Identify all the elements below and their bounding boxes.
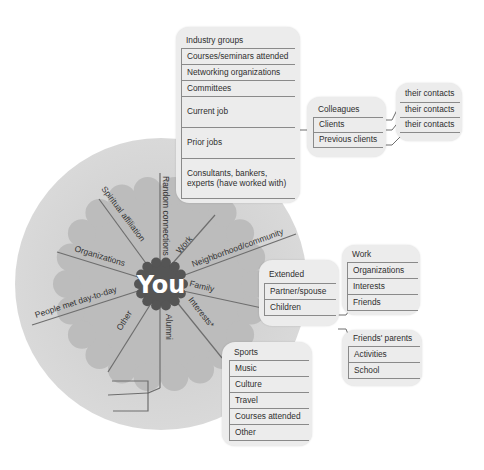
interests-item-other: Other	[229, 425, 309, 441]
family-item-children: Children	[264, 300, 336, 316]
current-job-item-previous-clients: Previous clients	[313, 133, 383, 148]
work-item-committees: Committees	[181, 81, 295, 97]
interests-item-travel: Travel	[229, 393, 309, 409]
partner-box: Work Organizations Interests Friends	[342, 245, 420, 315]
contacts-box: their contacts their contacts their cont…	[396, 83, 462, 141]
center-label: You	[136, 271, 186, 299]
interests-item-courses: Courses attended	[229, 409, 309, 425]
children-item-activities: Activities	[348, 347, 420, 363]
contacts-item-previous-clients: their contacts	[400, 118, 460, 133]
partner-item-interests: Interests	[347, 279, 418, 295]
current-job-item-clients: Clients	[313, 118, 383, 133]
spoke-label-alumni: Alumni	[164, 314, 174, 340]
work-item-current-job: Current job	[181, 97, 295, 128]
children-item-friends-parents: Friends' parents	[348, 331, 420, 347]
work-item-prior-jobs: Prior jobs	[181, 128, 295, 159]
children-item-school: School	[348, 363, 420, 379]
interests-item-sports: Sports	[229, 345, 309, 361]
work-item-courses: Courses/seminars attended	[181, 49, 295, 65]
partner-item-friends: Friends	[347, 295, 418, 311]
children-box: Friends' parents Activities School	[342, 330, 422, 386]
interests-item-music: Music	[229, 361, 309, 377]
interests-box: Sports Music Culture Travel Courses atte…	[222, 342, 312, 446]
current-job-box: Colleagues Clients Previous clients	[307, 97, 386, 157]
current-job-item-colleagues: Colleagues	[313, 103, 383, 118]
contacts-item-clients: their contacts	[400, 103, 460, 118]
work-item-consultants: Consultants, bankers, experts (have work…	[181, 159, 295, 199]
spoke-label-random-connections: Random connections	[161, 176, 171, 256]
work-item-industry-groups: Industry groups	[181, 33, 295, 49]
partner-item-work: Work	[347, 247, 418, 263]
family-item-extended: Extended	[264, 267, 336, 284]
family-box: Extended Partner/spouse Children	[259, 260, 339, 326]
work-item-networking: Networking organizations	[181, 65, 295, 81]
contacts-item-colleagues: their contacts	[400, 86, 460, 103]
family-item-partner: Partner/spouse	[264, 284, 336, 300]
interests-item-culture: Culture	[229, 377, 309, 393]
partner-item-organizations: Organizations	[347, 263, 418, 279]
work-box: Industry groups Courses/seminars attende…	[176, 27, 300, 203]
